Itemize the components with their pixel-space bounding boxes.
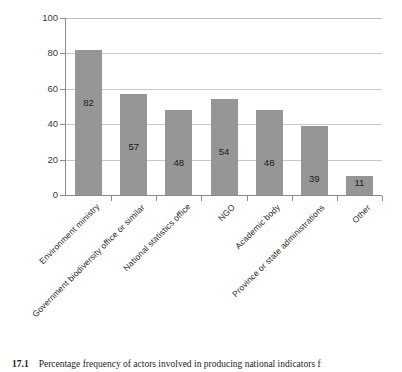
bar-chart-figure: 020406080100 82574854483911 Environment … [0,0,402,372]
bar-value-label: 48 [256,158,283,168]
bar[interactable]: 82 [75,50,102,195]
y-tick-label-60: 60 [32,84,58,94]
y-tick-0 [60,195,66,196]
bar-value-label: 39 [301,174,328,184]
bar[interactable]: 54 [211,99,238,195]
bar-value-label: 48 [165,158,192,168]
bar[interactable]: 48 [165,110,192,195]
x-tick [111,196,112,201]
figure-caption-text: Percentage frequency of actors involved … [39,359,321,369]
bar[interactable]: 48 [256,110,283,195]
x-axis-label: Other [350,202,372,224]
y-tick-60 [60,89,66,90]
x-tick [337,196,338,201]
x-axis-label: Province or state administrations [230,202,327,299]
y-tick-80 [60,53,66,54]
y-tick-label-40: 40 [32,119,58,129]
bar-value-label: 57 [120,142,147,152]
figure-number: 17.1 [12,359,29,369]
x-axis-label: Academic body [233,202,282,251]
x-tick [382,196,383,201]
y-tick-label-20: 20 [32,155,58,165]
y-tick-100 [60,18,66,19]
x-tick [201,196,202,201]
bar-value-label: 11 [346,178,373,188]
x-tick [292,196,293,201]
bar[interactable]: 11 [346,176,373,195]
y-tick-label-80: 80 [32,48,58,58]
bar-value-label: 82 [75,98,102,108]
bar-value-label: 54 [211,147,238,157]
bar[interactable]: 57 [120,94,147,195]
figure-caption: 17.1Percentage frequency of actors invol… [12,358,402,370]
y-axis-tick-labels: 020406080100 [28,0,58,220]
x-tick [247,196,248,201]
x-axis-label: NGO [216,202,237,223]
y-tick-label-100: 100 [32,13,58,23]
x-tick [156,196,157,201]
x-axis-category-labels: Environment ministryGovernment biodivers… [0,196,402,356]
bars-layer: 82574854483911 [66,18,382,195]
bar[interactable]: 39 [301,126,328,195]
y-tick-20 [60,160,66,161]
y-tick-40 [60,124,66,125]
